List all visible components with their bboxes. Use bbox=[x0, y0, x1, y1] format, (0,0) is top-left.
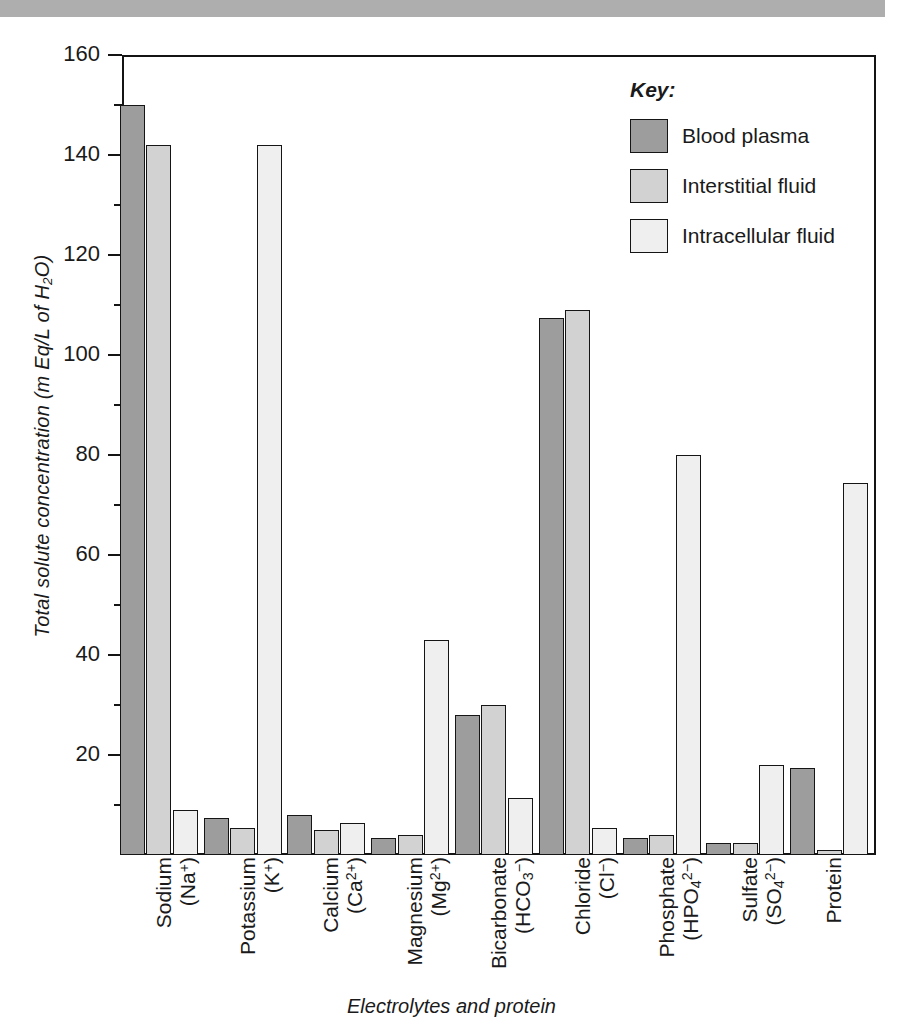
category-name: Sodium bbox=[152, 857, 175, 928]
bar-group bbox=[206, 55, 290, 855]
y-axis-title: Total solute concentration (m Eq/L of H2… bbox=[31, 116, 55, 776]
category-formula: (Na+) bbox=[176, 857, 200, 1007]
bar bbox=[455, 715, 480, 855]
category-name: Protein bbox=[822, 857, 845, 924]
bar-group bbox=[122, 55, 206, 855]
bar bbox=[424, 640, 449, 855]
legend-swatch bbox=[630, 119, 668, 153]
bar bbox=[371, 838, 396, 856]
bar bbox=[676, 455, 701, 855]
x-axis-category-labels: Sodium(Na+)Potassium(K+)Calcium(Ca2+)Mag… bbox=[122, 857, 876, 997]
x-axis-category-label: Sodium(Na+) bbox=[152, 857, 201, 1007]
category-name: Bicarbonate bbox=[487, 857, 510, 969]
category-formula: (SO42−) bbox=[763, 857, 789, 1007]
bar bbox=[565, 310, 590, 855]
bar bbox=[230, 828, 255, 856]
bar-chart-figure: Total solute concentration (m Eq/L of H2… bbox=[0, 0, 903, 1028]
bar bbox=[706, 843, 731, 856]
y-axis-tick-label: 40 bbox=[76, 641, 100, 667]
x-axis-category-label: Calcium(Ca2+) bbox=[319, 857, 368, 1007]
bar-group bbox=[457, 55, 541, 855]
x-axis-category-label: Chloride(Cl−) bbox=[571, 857, 620, 1007]
bar bbox=[843, 483, 868, 856]
bar bbox=[623, 838, 648, 856]
bar bbox=[398, 835, 423, 855]
bar bbox=[733, 843, 758, 856]
y-axis-tick-label: 20 bbox=[76, 741, 100, 767]
bar-group bbox=[290, 55, 374, 855]
y-axis-tick-label: 160 bbox=[63, 41, 100, 67]
x-axis-title: Electrolytes and protein bbox=[0, 995, 903, 1018]
bar bbox=[314, 830, 339, 855]
legend-swatch bbox=[630, 219, 668, 253]
legend-label: Interstitial fluid bbox=[682, 174, 816, 198]
legend-item: Intracellular fluid bbox=[630, 214, 870, 258]
legend: Key: Blood plasmaInterstitial fluidIntra… bbox=[630, 78, 870, 264]
y-axis-tick-label: 120 bbox=[63, 241, 100, 267]
bar-group bbox=[541, 55, 625, 855]
category-name: Calcium bbox=[319, 857, 342, 933]
bar bbox=[817, 850, 842, 855]
bar bbox=[120, 105, 145, 855]
category-formula: (Mg2+) bbox=[428, 857, 452, 1007]
category-formula: (HPO42−) bbox=[679, 857, 705, 1007]
y-axis-tick-label: 140 bbox=[63, 141, 100, 167]
bar bbox=[340, 823, 365, 856]
x-axis-category-label: Potassium(K+) bbox=[236, 857, 285, 1007]
legend-label: Blood plasma bbox=[682, 124, 809, 148]
category-name: Phosphate bbox=[655, 857, 678, 957]
x-axis-category-label: Sulfate(SO42−) bbox=[738, 857, 788, 1007]
x-axis-category-label: Protein bbox=[822, 857, 846, 1007]
legend-label: Intracellular fluid bbox=[682, 224, 835, 248]
legend-rows: Blood plasmaInterstitial fluidIntracellu… bbox=[630, 114, 870, 258]
category-formula: (K+) bbox=[260, 857, 284, 1007]
bar bbox=[173, 810, 198, 855]
y-axis-tick-label: 100 bbox=[63, 341, 100, 367]
bar bbox=[649, 835, 674, 855]
legend-item: Interstitial fluid bbox=[630, 164, 870, 208]
bar bbox=[481, 705, 506, 855]
x-axis-category-label: Magnesium(Mg2+) bbox=[403, 857, 452, 1007]
bar bbox=[508, 798, 533, 856]
legend-item: Blood plasma bbox=[630, 114, 870, 158]
category-name: Magnesium bbox=[403, 857, 426, 966]
y-axis-tick-label: 60 bbox=[76, 541, 100, 567]
x-axis-category-label: Bicarbonate(HCO3−) bbox=[487, 857, 537, 1007]
category-name: Sulfate bbox=[738, 857, 761, 922]
y-axis-tick-label: 80 bbox=[76, 441, 100, 467]
tick-line bbox=[108, 54, 122, 56]
bar bbox=[592, 828, 617, 856]
x-axis-category-label: Phosphate(HPO42−) bbox=[655, 857, 705, 1007]
bar bbox=[790, 768, 815, 856]
category-formula: (HCO3−) bbox=[511, 857, 537, 1007]
legend-swatch bbox=[630, 169, 668, 203]
bar bbox=[539, 318, 564, 856]
category-formula: (Ca2+) bbox=[344, 857, 368, 1007]
bar bbox=[287, 815, 312, 855]
bar-group bbox=[373, 55, 457, 855]
legend-title: Key: bbox=[630, 78, 870, 102]
bar bbox=[204, 818, 229, 856]
category-name: Chloride bbox=[571, 857, 594, 935]
category-name: Potassium bbox=[236, 857, 259, 955]
bar bbox=[146, 145, 171, 855]
bar bbox=[759, 765, 784, 855]
bar bbox=[257, 145, 282, 855]
category-formula: (Cl−) bbox=[595, 857, 619, 1007]
